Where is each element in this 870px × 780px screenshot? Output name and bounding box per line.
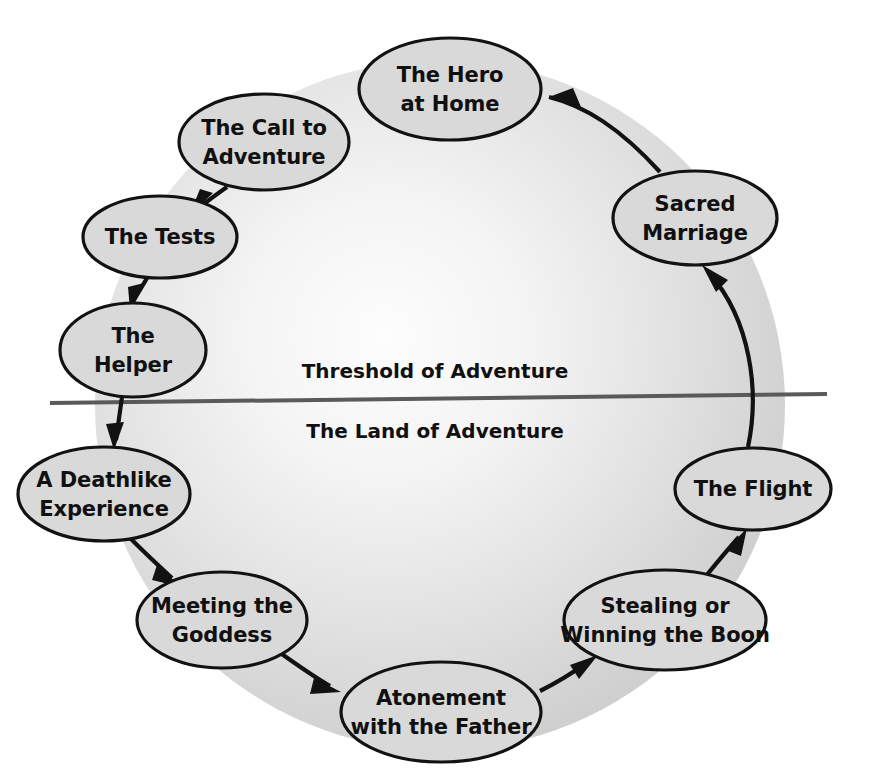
- node-deathlike-experience[interactable]: A Deathlike Experience: [18, 447, 190, 541]
- node-shape[interactable]: [137, 572, 307, 668]
- node-shape[interactable]: [341, 662, 541, 762]
- node-the-helper[interactable]: The Helper: [60, 303, 206, 397]
- node-atonement-with-the-father[interactable]: Atonement with the Father: [341, 662, 541, 762]
- node-label-line1: Atonement: [376, 686, 506, 710]
- node-shape[interactable]: [359, 38, 541, 140]
- hero-journey-diagram: The Hero at Home The Call to Adventure T…: [0, 0, 870, 780]
- node-hero-at-home[interactable]: The Hero at Home: [359, 38, 541, 140]
- node-the-tests[interactable]: The Tests: [83, 196, 237, 278]
- threshold-of-adventure-label: Threshold of Adventure: [302, 359, 569, 383]
- node-label-line1: The Tests: [105, 225, 216, 249]
- node-label-line2: Marriage: [642, 221, 748, 245]
- node-sacred-marriage[interactable]: Sacred Marriage: [613, 171, 777, 265]
- node-label-line1: Sacred: [655, 192, 736, 216]
- node-label-line2: Helper: [94, 353, 173, 377]
- node-shape[interactable]: [60, 303, 206, 397]
- node-label-line1: Stealing or: [601, 594, 731, 618]
- node-shape[interactable]: [613, 171, 777, 265]
- node-label-line2: Goddess: [172, 623, 272, 647]
- node-label-line2: with the Father: [351, 715, 533, 739]
- node-label-line1: The Hero: [397, 63, 504, 87]
- node-shape[interactable]: [564, 570, 766, 670]
- node-label-line1: The Call to: [201, 116, 327, 140]
- node-label-line2: Winning the Boon: [560, 623, 770, 647]
- node-stealing-or-winning-the-boon[interactable]: Stealing or Winning the Boon: [560, 570, 770, 670]
- node-label-line2: at Home: [401, 92, 500, 116]
- node-the-flight[interactable]: The Flight: [675, 448, 831, 530]
- node-shape[interactable]: [179, 94, 349, 190]
- node-label-line1: The: [111, 324, 154, 348]
- node-label-line1: A Deathlike: [36, 468, 171, 492]
- node-label-line2: Adventure: [203, 145, 326, 169]
- node-label-line1: The Flight: [694, 477, 813, 501]
- node-call-to-adventure[interactable]: The Call to Adventure: [179, 94, 349, 190]
- node-label-line1: Meeting the: [151, 594, 293, 618]
- node-label-line2: Experience: [39, 497, 169, 521]
- diagram-canvas: The Hero at Home The Call to Adventure T…: [0, 0, 870, 780]
- node-shape[interactable]: [18, 447, 190, 541]
- land-of-adventure-label: The Land of Adventure: [306, 419, 563, 443]
- node-meeting-the-goddess[interactable]: Meeting the Goddess: [137, 572, 307, 668]
